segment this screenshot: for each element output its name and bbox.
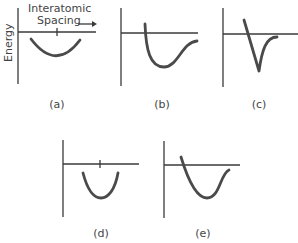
- panel-c: [223, 8, 298, 87]
- caption-d: (d): [93, 227, 109, 240]
- panel-b: [121, 8, 198, 86]
- energy-curves-diagram: Interatomic Spacing Energy (a) (b) (c) (…: [0, 0, 298, 243]
- panel-b-curve: [145, 24, 197, 67]
- y-axis-label: Energy: [2, 23, 15, 62]
- right-arrow-icon: [78, 21, 97, 27]
- panel-c-curve: [244, 20, 277, 71]
- caption-c: (c): [252, 98, 267, 111]
- panel-a-curve: [31, 39, 80, 56]
- panel-e-curve: [181, 157, 229, 198]
- x-axis-label-line2: Spacing: [37, 14, 81, 27]
- panel-e: [164, 141, 240, 218]
- panel-d-curve: [83, 173, 118, 198]
- caption-e: (e): [195, 227, 210, 240]
- caption-a: (a): [49, 98, 64, 111]
- caption-b: (b): [154, 98, 170, 111]
- panel-d: [63, 140, 139, 217]
